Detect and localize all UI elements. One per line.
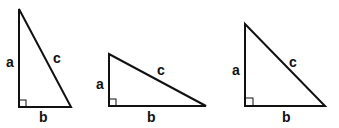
side-b-label: b — [147, 109, 156, 125]
side-c-label: c — [53, 50, 61, 66]
right-angle-marker — [109, 99, 116, 106]
triangle-1: a b c — [6, 9, 71, 125]
side-b-label: b — [39, 109, 48, 125]
triangle-3-shape — [245, 24, 325, 106]
right-angle-marker — [19, 100, 26, 107]
side-a-label: a — [96, 76, 104, 92]
right-angle-marker — [245, 98, 253, 106]
side-a-label: a — [6, 54, 14, 70]
triangle-3: a b c — [232, 24, 325, 125]
side-a-label: a — [232, 62, 240, 78]
triangle-2: a b c — [96, 54, 206, 125]
triangles-diagram: a b c a b c a b c — [0, 0, 339, 128]
side-c-label: c — [157, 62, 165, 78]
triangle-1-shape — [19, 9, 71, 107]
side-c-label: c — [289, 54, 297, 70]
side-b-label: b — [282, 109, 291, 125]
